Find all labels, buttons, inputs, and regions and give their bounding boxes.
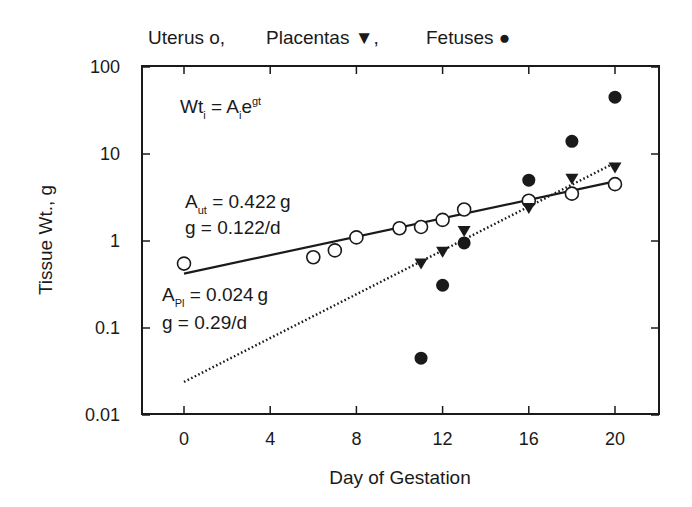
uterus-marker bbox=[436, 213, 449, 226]
y-tick-label: 0.01 bbox=[85, 405, 120, 425]
fetus-marker bbox=[565, 135, 578, 148]
fetus-marker bbox=[458, 236, 471, 249]
uterus-marker bbox=[458, 203, 471, 216]
placenta-marker bbox=[458, 226, 471, 237]
fetus-marker bbox=[436, 279, 449, 292]
y-tick-label: 10 bbox=[100, 144, 120, 164]
equation-annotation: Wti = Aiegt bbox=[180, 95, 261, 121]
y-axis: 0.010.1110100 bbox=[85, 57, 659, 425]
chart: Uterus o, Placentas ▼, Fetuses ● 0481216… bbox=[0, 0, 692, 507]
plot-frame bbox=[142, 66, 659, 414]
legend: Uterus o, Placentas ▼, Fetuses ● bbox=[148, 27, 510, 48]
x-axis-label: Day of Gestation bbox=[329, 467, 471, 488]
y-tick-label: 0.1 bbox=[95, 318, 120, 338]
svg-text:g = 0.29/d: g = 0.29/d bbox=[162, 312, 247, 333]
uterus-marker bbox=[178, 257, 191, 270]
uterus-marker bbox=[415, 220, 428, 233]
fetus-marker bbox=[609, 91, 622, 104]
x-tick-label: 12 bbox=[433, 429, 453, 449]
placenta-marker bbox=[609, 162, 622, 173]
svg-text:APl = 0.024 g: APl = 0.024 g bbox=[162, 284, 268, 309]
fetus-marker bbox=[522, 174, 535, 187]
uterus-fit-annotation: Aut = 0.422 g g = 0.122/d bbox=[185, 191, 290, 238]
uterus-marker bbox=[350, 231, 363, 244]
uterus-marker bbox=[393, 222, 406, 235]
x-tick-label: 20 bbox=[605, 429, 625, 449]
svg-text:g = 0.122/d: g = 0.122/d bbox=[185, 217, 281, 238]
svg-text:Wti = Aiegt: Wti = Aiegt bbox=[180, 95, 261, 121]
uterus-marker bbox=[328, 244, 341, 257]
legend-placentas: Placentas ▼, bbox=[266, 27, 379, 48]
x-tick-label: 0 bbox=[179, 429, 189, 449]
x-tick-label: 16 bbox=[519, 429, 539, 449]
placenta-marker bbox=[522, 203, 535, 214]
legend-fetuses: Fetuses ● bbox=[426, 27, 510, 48]
uterus-marker bbox=[565, 187, 578, 200]
placenta-fit-annotation: APl = 0.024 g g = 0.29/d bbox=[162, 284, 268, 333]
fetus-marker bbox=[415, 352, 428, 365]
uterus-marker bbox=[609, 178, 622, 191]
x-tick-label: 4 bbox=[265, 429, 275, 449]
x-axis: 048121620 bbox=[179, 66, 625, 449]
uterus-marker bbox=[307, 251, 320, 264]
placenta-marker bbox=[565, 174, 578, 185]
legend-uterus: Uterus o, bbox=[148, 27, 225, 48]
y-tick-label: 1 bbox=[110, 231, 120, 251]
svg-text:Aut = 0.422 g: Aut = 0.422 g bbox=[185, 191, 290, 216]
y-axis-label: Tissue Wt., g bbox=[35, 185, 56, 295]
y-tick-label: 100 bbox=[90, 57, 120, 77]
x-tick-label: 8 bbox=[351, 429, 361, 449]
